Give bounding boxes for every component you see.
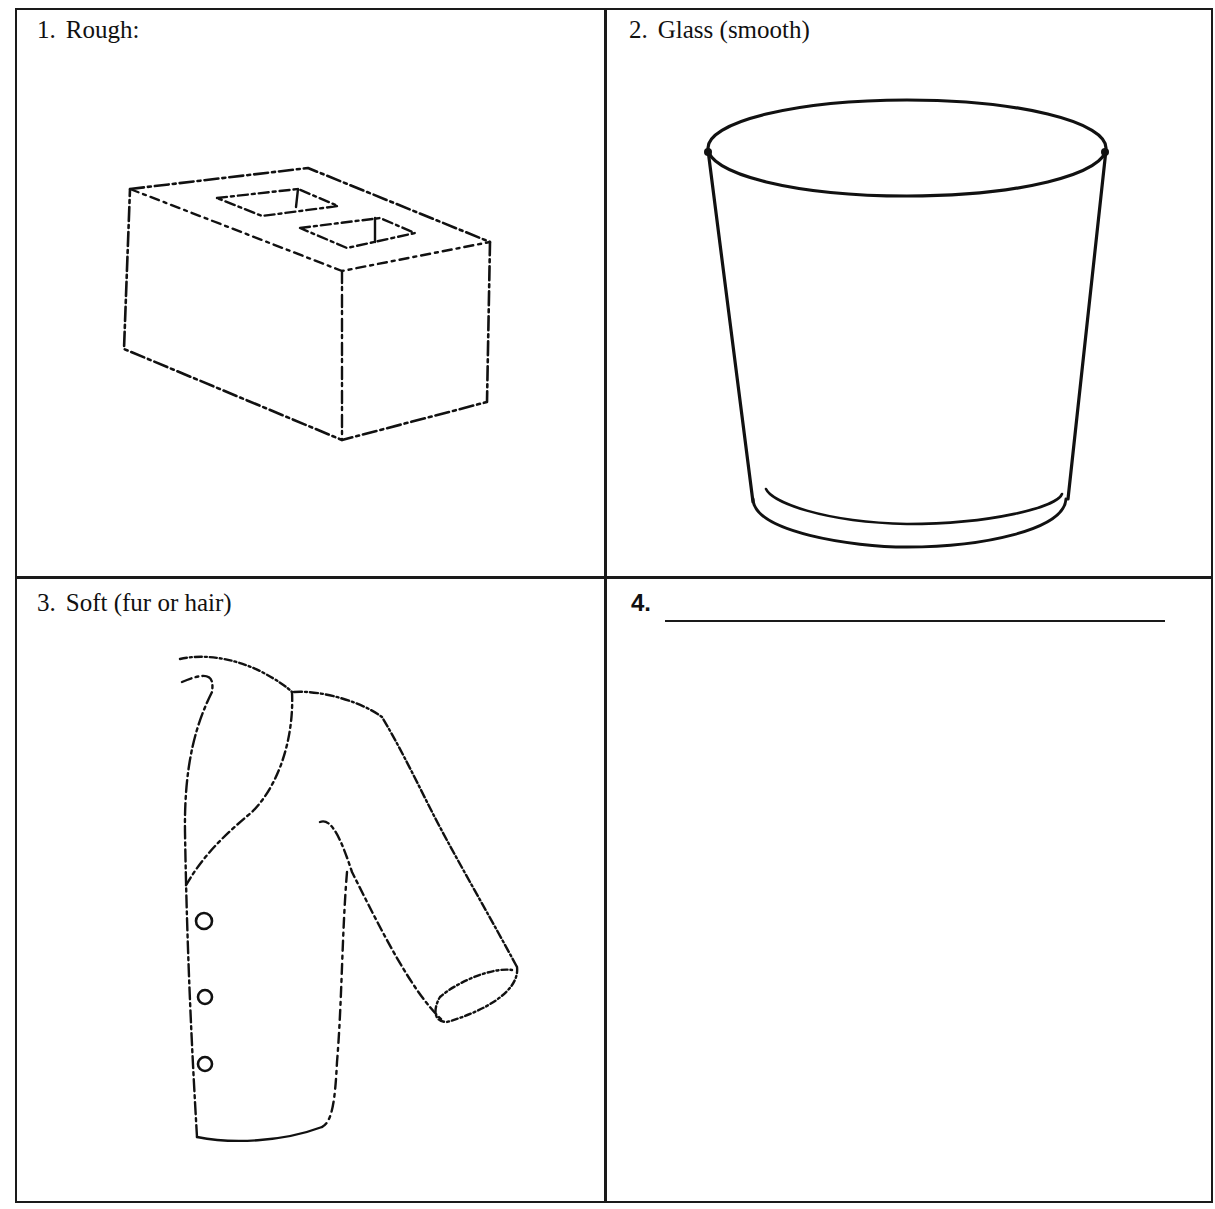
cell-glass: 2.Glass (smooth) xyxy=(607,10,1213,576)
fur-jacket-icon xyxy=(17,579,604,1201)
drinking-glass-icon xyxy=(607,10,1213,576)
blank-answer-line[interactable] xyxy=(665,620,1165,622)
worksheet-grid: 1.Rough: 2.Glass (smooth) xyxy=(15,8,1213,1203)
cell-rough: 1.Rough: xyxy=(17,10,604,576)
cell-4-number: 4. xyxy=(631,589,651,616)
cinder-block-icon xyxy=(17,10,604,576)
cell-soft: 3.Soft (fur or hair) xyxy=(17,579,604,1201)
cell-blank[interactable]: 4. xyxy=(607,579,1213,1201)
cell-4-label: 4. xyxy=(631,589,661,617)
